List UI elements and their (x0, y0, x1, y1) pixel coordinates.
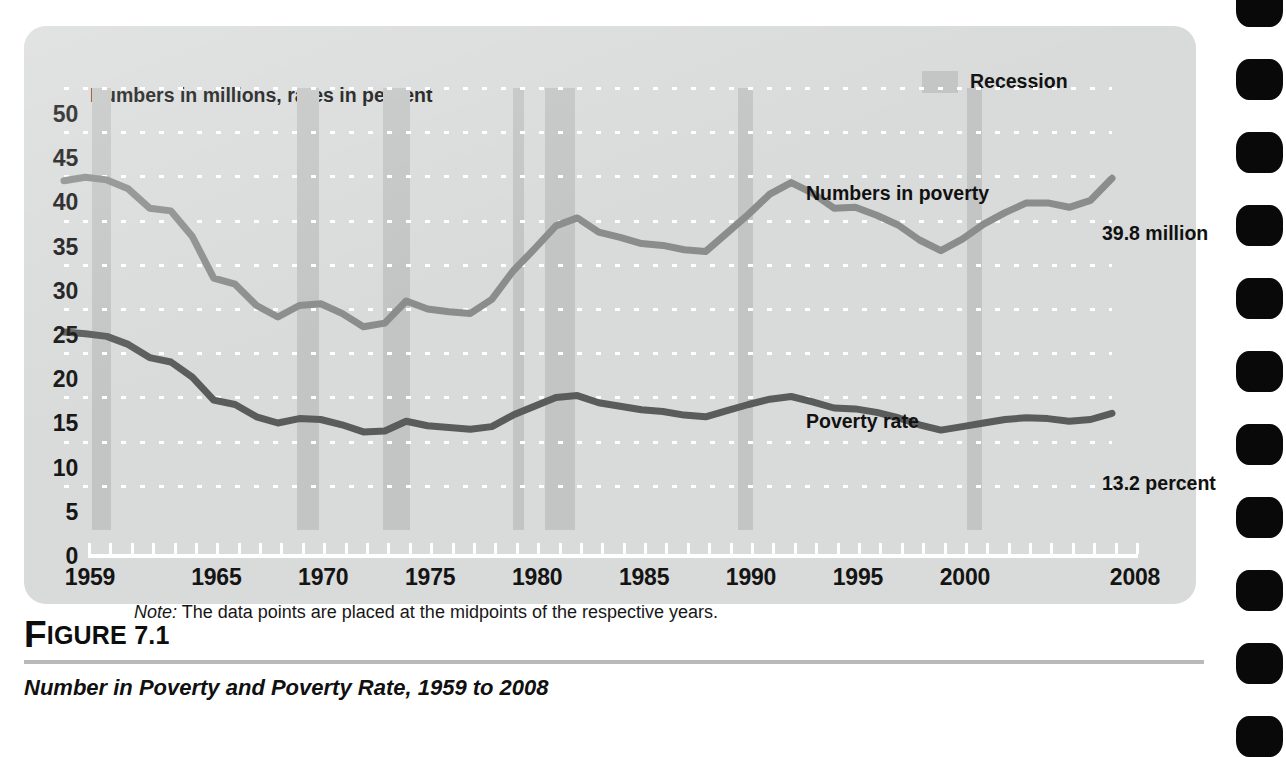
x-axis-tick (986, 543, 989, 554)
x-axis-tick (174, 543, 177, 554)
x-axis-tick (537, 543, 540, 554)
x-axis-tick (922, 543, 925, 554)
binding-hole (1236, 424, 1283, 465)
x-axis-tick (901, 543, 904, 554)
end-value-label-numbers: 39.8 million (1102, 222, 1208, 245)
x-axis-tick-label: 1965 (191, 564, 241, 591)
x-axis-tick (280, 543, 283, 554)
x-axis-labels: 1959196519701975198019851990199520002008 (24, 564, 1220, 598)
x-axis-tick (623, 543, 626, 554)
x-axis-tick (494, 543, 497, 554)
y-axis-tick-label: 40 (53, 189, 78, 216)
x-axis-tick-label: 1959 (65, 564, 115, 591)
x-axis-tick (665, 543, 668, 554)
figure-number: FIGURE 7.1 (24, 618, 1204, 660)
x-axis-tick (1136, 543, 1139, 554)
y-axis-tick-label: 50 (53, 101, 78, 128)
x-axis-tick (644, 543, 647, 554)
x-axis-tick (879, 543, 882, 554)
y-axis-tick-label: 25 (53, 322, 78, 349)
x-axis-tick (965, 543, 968, 554)
binding-hole (1236, 0, 1283, 27)
plot-area (64, 88, 1112, 530)
x-axis-tick (601, 543, 604, 554)
x-axis-tick (1093, 543, 1096, 554)
x-axis-tick-label: 1975 (405, 564, 455, 591)
x-axis-tick-label: 1995 (833, 564, 883, 591)
x-axis-tick (1029, 543, 1032, 554)
x-axis-tick-label: 2000 (940, 564, 990, 591)
x-axis-tick (152, 543, 155, 554)
x-axis-tick (837, 543, 840, 554)
y-axis-tick-label: 20 (53, 366, 78, 393)
x-axis-line (88, 554, 1138, 558)
binding-hole (1236, 716, 1283, 757)
x-axis-tick (323, 543, 326, 554)
x-axis-tick (815, 543, 818, 554)
figure-number-dropcap: F (24, 614, 47, 655)
figure-divider (24, 660, 1204, 664)
x-axis-tick-label: 1990 (726, 564, 776, 591)
x-axis-tick (730, 543, 733, 554)
x-axis-tick (387, 543, 390, 554)
binding-hole (1236, 132, 1283, 173)
series-label-poverty-rate: Poverty rate (806, 410, 919, 433)
x-axis-tick-label: 2008 (1110, 564, 1160, 591)
line-poverty-rate (64, 332, 1112, 432)
binding-hole (1236, 643, 1283, 684)
binding-hole (1236, 205, 1283, 246)
x-axis-tick (858, 543, 861, 554)
x-axis-tick (195, 543, 198, 554)
x-axis-tick (473, 543, 476, 554)
x-axis-tick-label: 1980 (512, 564, 562, 591)
x-axis-tick (409, 543, 412, 554)
x-axis-tick (302, 543, 305, 554)
y-axis-tick-label: 30 (53, 277, 78, 304)
x-axis-tick (944, 543, 947, 554)
x-axis-tick (345, 543, 348, 554)
x-axis-tick (452, 543, 455, 554)
binding-hole (1236, 570, 1283, 611)
x-axis-tick (109, 543, 112, 554)
x-axis-tick (1050, 543, 1053, 554)
x-axis-tick (1115, 543, 1118, 554)
x-axis-tick-label: 1985 (619, 564, 669, 591)
y-axis-tick-label: 10 (53, 454, 78, 481)
y-axis-tick-label: 35 (53, 233, 78, 260)
x-axis-tick (366, 543, 369, 554)
x-axis-tick (1072, 543, 1075, 554)
binding-hole (1236, 351, 1283, 392)
x-axis-tick (238, 543, 241, 554)
x-axis-tick (88, 543, 91, 554)
end-value-label-rate: 13.2 percent (1102, 472, 1216, 495)
chart-panel: Numbers in millions, rates in percent Re… (24, 26, 1196, 604)
x-axis-tick (259, 543, 262, 554)
spiral-binding (1230, 0, 1286, 732)
y-axis-labels: 05101520253035404550 (38, 114, 78, 556)
binding-hole (1236, 59, 1283, 100)
figure-number-rest: IGURE 7.1 (47, 621, 170, 649)
x-axis-tick-label: 1970 (298, 564, 348, 591)
x-axis-tick (216, 543, 219, 554)
y-axis-tick-label: 45 (53, 145, 78, 172)
binding-hole (1236, 278, 1283, 319)
x-axis-tick (559, 543, 562, 554)
x-axis-tick (687, 543, 690, 554)
y-axis-tick-label: 5 (65, 498, 78, 525)
x-axis-tick (430, 543, 433, 554)
x-axis-tick (516, 543, 519, 554)
x-axis-tick (1008, 543, 1011, 554)
x-axis-tick (772, 543, 775, 554)
series-lines (64, 88, 1112, 530)
binding-hole (1236, 497, 1283, 538)
x-axis-tick (131, 543, 134, 554)
series-label-numbers-in-poverty: Numbers in poverty (806, 182, 989, 205)
x-axis-tick (794, 543, 797, 554)
x-axis-tick (708, 543, 711, 554)
y-axis-tick-label: 15 (53, 410, 78, 437)
figure-block: FIGURE 7.1 Number in Poverty and Poverty… (24, 618, 1204, 701)
x-axis-tick (751, 543, 754, 554)
x-axis-tick (580, 543, 583, 554)
figure-caption: Number in Poverty and Poverty Rate, 1959… (24, 675, 1204, 701)
